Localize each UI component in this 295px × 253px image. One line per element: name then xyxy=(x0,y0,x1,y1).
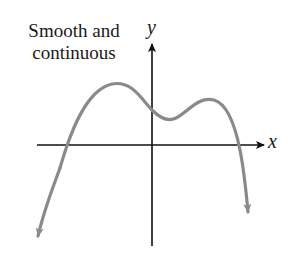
y-axis-label: y xyxy=(147,16,156,39)
polynomial-curve-left-tail xyxy=(38,168,60,236)
x-axis-label: x xyxy=(268,130,277,153)
caption-line-1: Smooth and xyxy=(14,20,134,42)
polynomial-curve xyxy=(60,83,248,212)
caption: Smooth and continuous xyxy=(14,20,134,64)
caption-line-2: continuous xyxy=(14,42,134,64)
